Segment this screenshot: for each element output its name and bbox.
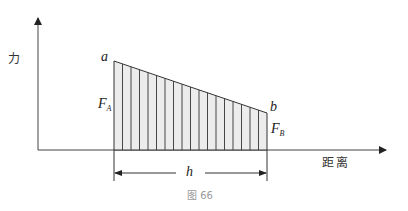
y-axis-label: 力: [8, 53, 20, 65]
figure-caption: 图 66: [187, 191, 213, 201]
force-b-label: FB: [271, 122, 284, 138]
width-label: h: [186, 165, 193, 179]
force-a-label: FA: [98, 97, 111, 113]
x-axis-label: 距离: [322, 157, 350, 169]
point-b-label: b: [270, 100, 277, 114]
point-a-label: a: [101, 50, 108, 64]
force-distance-diagram: [0, 0, 408, 211]
